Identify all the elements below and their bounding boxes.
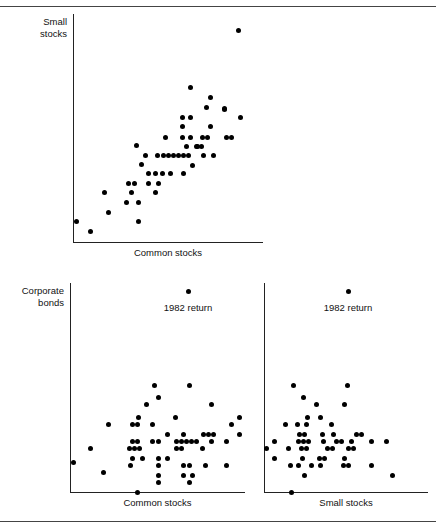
scatter-point [300, 456, 305, 461]
scatter-point [304, 422, 309, 427]
scatter-point [264, 446, 269, 451]
scatter-point [346, 463, 351, 468]
scatter-point [299, 446, 304, 451]
scatter-point [346, 446, 351, 451]
scatter-point [272, 456, 277, 461]
scatter-point [283, 422, 288, 427]
scatter-panel-corporate-vs-small: Small stocks 1982 return [0, 0, 436, 529]
scatter-point [296, 463, 301, 468]
scatter-point [349, 439, 354, 444]
scatter-point [322, 456, 327, 461]
scatter-point [351, 446, 356, 451]
scatter-point [286, 446, 291, 451]
scatter-point [318, 415, 323, 420]
scatter-point [325, 446, 330, 451]
scatter-point [291, 383, 296, 388]
scatter-point [296, 439, 301, 444]
plot-axes [264, 283, 428, 493]
scatter-point [329, 422, 334, 427]
scatter-point [317, 456, 322, 461]
scatter-point [295, 422, 300, 427]
scatter-point [321, 439, 326, 444]
scatter-point [302, 473, 307, 478]
scatter-point [289, 490, 294, 495]
scatter-point [330, 446, 335, 451]
scatter-point [306, 439, 311, 444]
scatter-point [369, 439, 374, 444]
scatter-point [301, 439, 306, 444]
scatter-point [334, 439, 339, 444]
scatter-point [318, 463, 323, 468]
scatter-point [342, 456, 347, 461]
scatter-point [302, 432, 307, 437]
scatter-point [345, 383, 350, 388]
scatter-point [342, 402, 347, 407]
scatter-point [314, 402, 319, 407]
scatter-point [369, 463, 374, 468]
figure-canvas: Small stocks Common stocks Corporate bon… [0, 0, 436, 529]
scatter-point [305, 415, 310, 420]
scatter-point [390, 473, 395, 478]
annotation-point [346, 289, 351, 294]
scatter-point [272, 439, 277, 444]
scatter-point [384, 439, 389, 444]
scatter-point [341, 463, 346, 468]
scatter-point [304, 446, 309, 451]
scatter-point [354, 432, 359, 437]
scatter-point [288, 463, 293, 468]
scatter-point [309, 463, 314, 468]
scatter-point [297, 432, 302, 437]
annotation-1982-return: 1982 return [298, 302, 398, 314]
scatter-point [320, 432, 325, 437]
scatter-point [301, 395, 306, 400]
x-axis-label: Small stocks [264, 497, 428, 509]
scatter-point [331, 432, 336, 437]
scatter-point [339, 439, 344, 444]
scatter-point [359, 432, 364, 437]
